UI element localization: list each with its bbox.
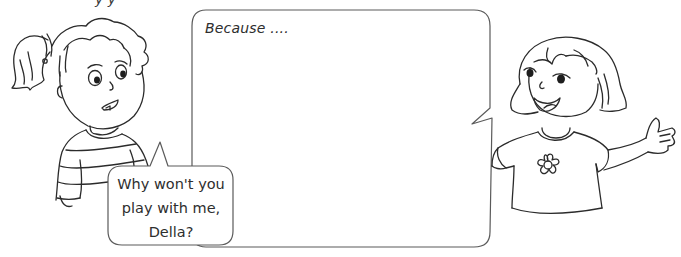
della-illustration <box>492 37 675 213</box>
answer-text-area[interactable] <box>200 44 484 243</box>
question-line-3: Della? <box>110 220 232 244</box>
question-line-2: play with me, <box>110 196 232 220</box>
answer-prompt-label: Because .... <box>205 20 289 36</box>
question-text: Why won't you play with me, Della? <box>110 172 232 244</box>
question-line-1: Why won't you <box>110 172 232 196</box>
